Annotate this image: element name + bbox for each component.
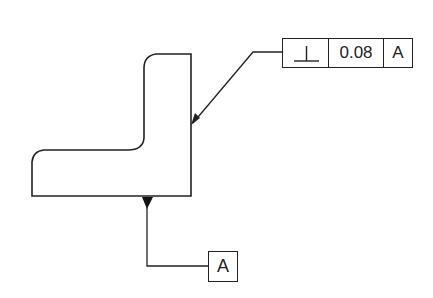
datum-feature-label: A (208, 251, 238, 282)
datum-leader-line (147, 207, 208, 266)
leader-line (193, 52, 282, 123)
perpendicularity-icon (283, 40, 328, 67)
tolerance-value: 0.08 (328, 39, 383, 67)
part-outline (32, 54, 191, 196)
leader-arrowhead-icon (191, 113, 200, 125)
feature-control-frame: 0.08 A (282, 38, 413, 68)
gdt-drawing: 0.08 A A (0, 0, 433, 298)
perpendicularity-symbol-cell (283, 39, 328, 67)
datum-reference: A (383, 39, 412, 67)
